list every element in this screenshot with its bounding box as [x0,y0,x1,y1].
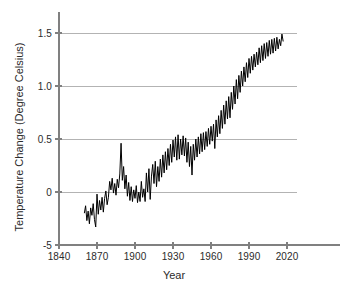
x-tick-label: 2020 [276,251,299,262]
temperature-series-line [84,34,283,227]
chart-figure: -500.51.01.5 184018701900193019601990202… [0,0,348,294]
x-tick-label: 1990 [238,251,261,262]
x-tick-label: 1930 [162,251,185,262]
x-tick-label: 1900 [124,251,147,262]
x-tick-label: 1870 [86,251,109,262]
x-tick-label: 1840 [48,251,71,262]
y-axis-title: Temperature Change (Degree Celsius) [13,27,25,247]
line-chart-plot [0,0,348,294]
x-tick-label: 1960 [200,251,223,262]
x-axis-title: Year [0,269,348,281]
